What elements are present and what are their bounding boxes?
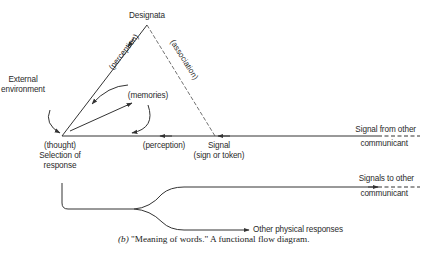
memories-to-edge-arrow: [92, 85, 128, 104]
caption-text: "Meaning of words." A functional flow di…: [129, 234, 310, 244]
memories-label: (memories): [128, 91, 168, 101]
signal-label-2: (sign or token): [194, 151, 245, 161]
designata-label: Designata: [129, 11, 165, 21]
signal-from-label-2: communicant: [360, 139, 408, 149]
memories-to-thought-arrow: [132, 105, 150, 133]
signals-to-label-2: communicant: [360, 189, 408, 199]
output-flow-main: [62, 183, 134, 209]
output-flow-lower: [134, 209, 249, 230]
external-environment-label-1: External: [8, 75, 37, 85]
figure-caption: (b) "Meaning of words." A functional flo…: [118, 234, 309, 244]
thought-label-2: Selection of: [39, 151, 81, 161]
perception-bottom-label: (perception): [143, 141, 186, 151]
external-environment-label-2: environment: [1, 85, 45, 95]
thought-to-memories-arrow: [70, 103, 132, 131]
thought-label-3: response: [44, 161, 77, 171]
caption-prefix: (b): [118, 234, 129, 244]
thought-label-1: (thought): [44, 141, 76, 151]
signal-label-1: Signal: [208, 141, 230, 151]
output-flow-upper: [134, 187, 378, 209]
signal-from-label-1: Signal from other: [355, 125, 416, 135]
signals-to-label-1: Signals to other: [359, 174, 414, 184]
external-environment-curve: [48, 110, 60, 133]
edge-designata-signal: [147, 25, 215, 136]
